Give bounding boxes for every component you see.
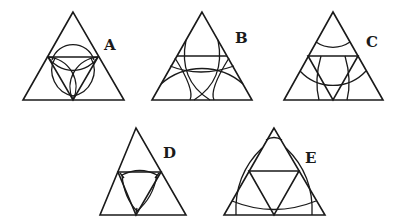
label-b: B [235, 29, 248, 47]
figure-b: B [152, 12, 252, 100]
figure-c: C [284, 12, 383, 100]
label-c: C [366, 33, 378, 51]
arc [122, 175, 137, 211]
medial-triangle [48, 57, 98, 100]
arc [300, 71, 366, 85]
arc [316, 42, 350, 47]
triangle-figures: A B C D E [0, 0, 404, 220]
medial-triangle [308, 56, 358, 100]
figure-a: A [23, 12, 124, 100]
outer-triangle [23, 12, 124, 100]
arc [236, 148, 262, 215]
label-d: D [163, 144, 176, 162]
label-e: E [305, 149, 316, 167]
label-a: A [103, 36, 116, 54]
arc [232, 201, 316, 210]
arc [161, 69, 243, 84]
arc [213, 58, 229, 100]
figure-e: E [224, 128, 325, 215]
arc [175, 58, 191, 100]
arc [137, 175, 157, 211]
figure-d: D [100, 128, 186, 215]
